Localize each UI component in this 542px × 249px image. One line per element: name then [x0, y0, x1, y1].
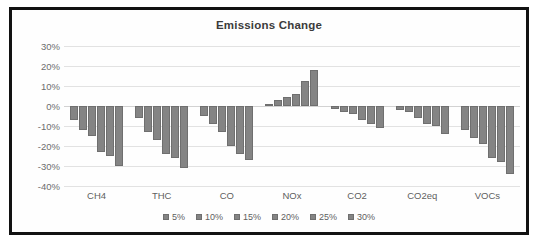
legend-swatch-icon: [196, 214, 202, 220]
bar-slot: [144, 46, 152, 186]
bar-CO2eq-30%[interactable]: [441, 106, 449, 134]
bar-THC-10%[interactable]: [144, 106, 152, 132]
bar-VOCs-30%[interactable]: [506, 106, 514, 174]
bar-VOCs-5%[interactable]: [461, 106, 469, 130]
legend-swatch-icon: [163, 214, 169, 220]
x-tick-label-VOCs: VOCs: [475, 190, 500, 201]
bar-slot: [358, 46, 366, 186]
bar-CO2-30%[interactable]: [376, 106, 384, 128]
bar-slot: [461, 46, 469, 186]
legend-label: 20%: [281, 212, 299, 222]
bar-THC-25%[interactable]: [171, 106, 179, 158]
bar-CH4-30%[interactable]: [115, 106, 123, 166]
bar-slot: [441, 46, 449, 186]
bar-slot: [200, 46, 208, 186]
bar-CO2-15%[interactable]: [349, 106, 357, 114]
x-tick-label-NOx: NOx: [283, 190, 302, 201]
bar-NOx-25%[interactable]: [301, 81, 309, 106]
bar-NOx-30%[interactable]: [310, 70, 318, 106]
bar-group-VOCs: [455, 46, 520, 186]
bar-CH4-5%[interactable]: [70, 106, 78, 120]
bar-CO-25%[interactable]: [236, 106, 244, 154]
bar-slot: [153, 46, 161, 186]
bar-CO2eq-10%[interactable]: [405, 106, 413, 112]
bar-slot: [423, 46, 431, 186]
bar-slot: [497, 46, 505, 186]
bar-VOCs-10%[interactable]: [470, 106, 478, 138]
bar-NOx-15%[interactable]: [283, 97, 291, 106]
bar-THC-20%[interactable]: [162, 106, 170, 154]
bar-THC-15%[interactable]: [153, 106, 161, 140]
bar-CO2eq-5%[interactable]: [396, 106, 404, 110]
bar-slot: [292, 46, 300, 186]
bar-group-CO2: [325, 46, 390, 186]
bar-CO2-10%[interactable]: [340, 106, 348, 112]
bar-VOCs-15%[interactable]: [479, 106, 487, 144]
bar-CH4-25%[interactable]: [106, 106, 114, 156]
bar-slot: [340, 46, 348, 186]
bar-CO2eq-20%[interactable]: [423, 106, 431, 124]
legend-item-5%[interactable]: 5%: [163, 212, 185, 222]
x-tick-label-THC: THC: [152, 190, 172, 201]
bar-NOx-5%[interactable]: [265, 104, 273, 106]
legend-item-15%[interactable]: 15%: [234, 212, 261, 222]
bar-slot: [70, 46, 78, 186]
bar-slot: [488, 46, 496, 186]
bar-group-THC: [129, 46, 194, 186]
bar-VOCs-25%[interactable]: [497, 106, 505, 162]
bar-group-CH4: [64, 46, 129, 186]
legend-item-25%[interactable]: 25%: [310, 212, 337, 222]
bar-NOx-20%[interactable]: [292, 94, 300, 106]
bar-THC-5%[interactable]: [135, 106, 143, 118]
y-tick-label: -20%: [14, 141, 60, 152]
bar-CO-20%[interactable]: [227, 106, 235, 146]
bar-CO2eq-15%[interactable]: [414, 106, 422, 118]
y-tick-label: -10%: [14, 121, 60, 132]
bar-NOx-10%[interactable]: [274, 100, 282, 106]
bar-slot: [331, 46, 339, 186]
legend-item-20%[interactable]: 20%: [272, 212, 299, 222]
bar-slot: [367, 46, 375, 186]
y-tick-label: 30%: [14, 41, 60, 52]
bar-slot: [227, 46, 235, 186]
legend-label: 10%: [205, 212, 223, 222]
bar-group-CO: [194, 46, 259, 186]
legend-item-10%[interactable]: 10%: [196, 212, 223, 222]
bar-CO2-20%[interactable]: [358, 106, 366, 120]
bar-group-CO2eq: [390, 46, 455, 186]
bar-CO2-5%[interactable]: [331, 106, 339, 109]
bar-slot: [274, 46, 282, 186]
bar-CH4-10%[interactable]: [79, 106, 87, 130]
bar-CO2-25%[interactable]: [367, 106, 375, 124]
bar-THC-30%[interactable]: [180, 106, 188, 168]
legend-label: 5%: [172, 212, 185, 222]
bar-slot: [171, 46, 179, 186]
bar-slot: [470, 46, 478, 186]
bar-CO-30%[interactable]: [245, 106, 253, 160]
bar-slot: [376, 46, 384, 186]
bar-slot: [218, 46, 226, 186]
bar-slot: [162, 46, 170, 186]
legend-swatch-icon: [310, 214, 316, 220]
bar-group-NOx: [259, 46, 324, 186]
bar-CO-10%[interactable]: [209, 106, 217, 124]
bar-slot: [97, 46, 105, 186]
legend-item-30%[interactable]: 30%: [348, 212, 375, 222]
bar-slot: [349, 46, 357, 186]
bar-slot: [283, 46, 291, 186]
bar-slot: [414, 46, 422, 186]
chart-frame: Emissions Change 30%20%10%0%-10%-20%-30%…: [9, 7, 529, 235]
bar-groups: [64, 46, 520, 186]
x-tick-label-CH4: CH4: [87, 190, 106, 201]
bar-slot: [301, 46, 309, 186]
bar-CO-15%[interactable]: [218, 106, 226, 132]
y-tick-label: 20%: [14, 61, 60, 72]
bar-CH4-15%[interactable]: [88, 106, 96, 136]
legend-swatch-icon: [234, 214, 240, 220]
bar-CO-5%[interactable]: [200, 106, 208, 116]
bar-CO2eq-25%[interactable]: [432, 106, 440, 126]
bar-CH4-20%[interactable]: [97, 106, 105, 152]
y-tick-label: -30%: [14, 161, 60, 172]
bar-VOCs-20%[interactable]: [488, 106, 496, 158]
legend-label: 25%: [319, 212, 337, 222]
